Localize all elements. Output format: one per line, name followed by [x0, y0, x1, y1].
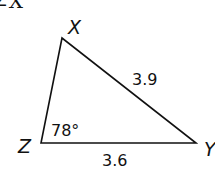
side-xy-label: 3.9 [132, 70, 157, 89]
angle-z-label: 78° [51, 121, 79, 140]
triangle-diagram: ∠X X Z Y 78° 3.9 3.6 [0, 0, 215, 170]
vertex-z-label: Z [17, 135, 32, 157]
partial-angle-label: ∠X [0, 0, 24, 13]
vertex-x-label: X [67, 16, 82, 38]
vertex-y-label: Y [204, 138, 215, 160]
side-zy-label: 3.6 [102, 151, 127, 170]
